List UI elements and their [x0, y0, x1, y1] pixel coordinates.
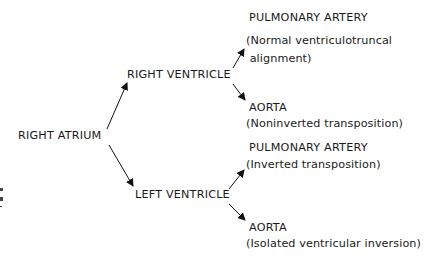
- note-lv-aorta: (Isolated ventricular inversion): [246, 237, 421, 251]
- node-rv-aorta: AORTA: [249, 102, 287, 114]
- edge-mark: [0, 206, 2, 207]
- arrow-ra-to-lv: [109, 145, 133, 186]
- arrow-lv-to-ao: [229, 204, 245, 220]
- node-right-ventricle: RIGHT VENTRICLE: [127, 69, 231, 81]
- note-lv-pa: (Inverted transposition): [246, 158, 381, 172]
- node-lv-aorta: AORTA: [249, 222, 287, 234]
- edge-mark: [0, 197, 3, 201]
- node-lv-pulmonary-artery: PULMONARY ARTERY: [249, 142, 368, 154]
- note-rv-pa-line1: (Normal ventriculotruncal: [246, 34, 392, 48]
- node-right-atrium: RIGHT ATRIUM: [18, 130, 101, 142]
- note-rv-pa-line2: alignment): [246, 52, 312, 66]
- arrow-rv-to-pa: [233, 49, 244, 68]
- node-left-ventricle: LEFT VENTRICLE: [135, 189, 230, 201]
- edge-mark: [0, 188, 3, 191]
- note-rv-aorta: (Noninverted transposition): [246, 117, 403, 131]
- arrow-ra-to-rv: [107, 83, 127, 129]
- node-rv-pulmonary-artery: PULMONARY ARTERY: [249, 12, 368, 24]
- arrow-rv-to-ao: [233, 84, 245, 100]
- arrow-lv-to-pa: [229, 170, 244, 189]
